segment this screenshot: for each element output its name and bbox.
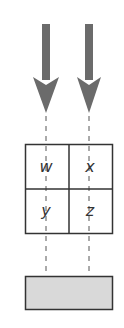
cell-w: w: [39, 157, 53, 176]
diagram-canvas: w x y z: [0, 0, 124, 328]
cell-y: y: [40, 201, 51, 220]
cell-x: x: [84, 157, 95, 176]
right-arrow-icon: [77, 24, 101, 113]
left-arrow-icon: [33, 24, 59, 113]
grid: w x y z: [26, 145, 113, 234]
cell-z: z: [85, 201, 95, 220]
base-block: [26, 277, 113, 310]
